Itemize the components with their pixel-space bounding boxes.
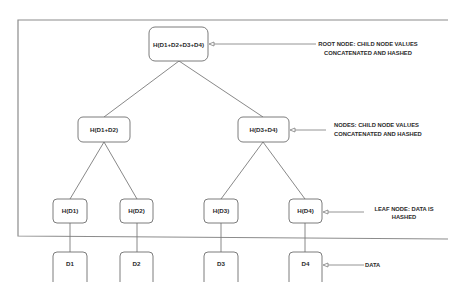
data-d1-label: D1 <box>66 260 74 267</box>
annotation-root-line1: ROOT NODE: CHILD NODE VALUES <box>318 41 418 47</box>
node-h34: H(D3+D4) <box>238 117 289 142</box>
edge-h34-hd3 <box>221 142 263 199</box>
data-d2: D2 <box>120 252 153 282</box>
leaf-hd4: H(D4) <box>289 199 322 223</box>
leaf-hd4-label: H(D4) <box>297 207 314 214</box>
data-d3: D3 <box>204 252 238 282</box>
annotation-nodes-line2: CONCATENATED AND HASHED <box>334 131 422 137</box>
leaf-hd3: H(D3) <box>204 199 238 223</box>
annotation-root-line2: CONCATENATED AND HASHED <box>324 50 412 56</box>
data-d4-label: D4 <box>302 260 310 267</box>
annotation-nodes-line1: NODES: CHILD NODE VALUES <box>334 122 419 128</box>
node-root-label: H(D1+D2+D3+D4) <box>153 41 204 48</box>
leaf-hd2: H(D2) <box>120 199 153 223</box>
annotation-data-line1: DATA <box>365 262 381 268</box>
annotation-root: ROOT NODE: CHILD NODE VALUES CONCATENATE… <box>209 41 418 56</box>
arrow-head-icon <box>323 210 328 214</box>
data-d1: D1 <box>53 252 87 282</box>
merkle-tree-diagram: H(D1+D2+D3+D4) H(D1+D2) H(D3+D4) H(D1) H… <box>0 0 462 293</box>
leaf-hd2-label: H(D2) <box>128 207 145 214</box>
arrow-head-icon <box>323 263 328 267</box>
arrow-head-icon <box>290 128 295 132</box>
leaf-hd1: H(D1) <box>53 199 87 223</box>
node-h12: H(D1+D2) <box>78 117 130 142</box>
annotation-nodes: NODES: CHILD NODE VALUES CONCATENATED AN… <box>290 122 422 137</box>
edge-h12-hd2 <box>104 142 137 199</box>
annotation-leaf-line1: LEAF NODE: DATA IS <box>374 206 433 212</box>
data-d3-label: D3 <box>217 260 225 267</box>
annotation-leaf-line2: HASHED <box>392 214 416 220</box>
arrow-head-icon <box>209 42 214 46</box>
data-d2-label: D2 <box>133 260 141 267</box>
data-d4: D4 <box>289 252 322 282</box>
edge-h12-hd1 <box>70 142 104 199</box>
node-root: H(D1+D2+D3+D4) <box>149 27 208 61</box>
edge-h34-hd4 <box>263 142 305 199</box>
node-h12-label: H(D1+D2) <box>90 126 118 133</box>
annotation-data: DATA <box>323 262 381 268</box>
annotation-leaf: LEAF NODE: DATA IS HASHED <box>323 206 434 220</box>
leaf-hd1-label: H(D1) <box>62 207 79 214</box>
leaf-hd3-label: H(D3) <box>213 207 230 214</box>
edge-root-h12 <box>104 61 179 117</box>
node-h34-label: H(D3+D4) <box>249 126 277 133</box>
edge-root-h34 <box>179 61 263 117</box>
